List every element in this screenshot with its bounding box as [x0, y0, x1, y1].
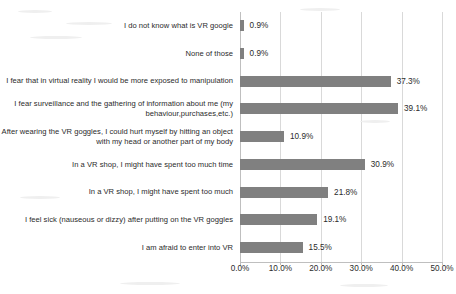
x-tick-label: 30.0%	[350, 264, 373, 273]
bar-row: I feel sick (nauseous or dizzy) after pu…	[0, 206, 456, 234]
bar-row: I am afraid to enter into VR 15.5%	[0, 234, 456, 262]
x-axis-ticks: 0.0% 10.0% 20.0% 30.0% 40.0% 50.0%	[240, 264, 442, 278]
bar-row: I fear that in virtual reality I would b…	[0, 67, 456, 95]
category-label: In a VR shop, I might have spent too muc…	[0, 187, 233, 197]
bar-row: In a VR shop, I might have spent too muc…	[0, 178, 456, 206]
category-label: After wearing the VR goggles, I could hu…	[0, 127, 233, 146]
bar-value-label: 15.5%	[309, 243, 332, 252]
bar-value-label: 0.9%	[250, 49, 269, 58]
bar-row: I fear surveillance and the gathering of…	[0, 95, 456, 123]
bar	[240, 159, 365, 170]
bar	[240, 131, 284, 142]
bar-value-label: 30.9%	[371, 160, 394, 169]
category-label: I fear surveillance and the gathering of…	[0, 99, 233, 118]
bar-container: 10.9%	[240, 123, 442, 151]
bar-container: 19.1%	[240, 206, 442, 234]
scan-artifact	[340, 284, 388, 287]
bar-container: 0.9%	[240, 40, 442, 68]
bar-container: 21.8%	[240, 178, 442, 206]
category-label: I feel sick (nauseous or dizzy) after pu…	[0, 215, 233, 225]
x-tick-label: 50.0%	[430, 264, 453, 273]
bar-value-label: 19.1%	[323, 215, 346, 224]
x-tick-label: 0.0%	[231, 264, 250, 273]
x-tick-label: 10.0%	[269, 264, 292, 273]
category-label: I am afraid to enter into VR	[0, 243, 233, 253]
bar-value-label: 21.8%	[334, 188, 357, 197]
bar-container: 37.3%	[240, 67, 442, 95]
x-tick-label: 40.0%	[390, 264, 413, 273]
category-label: None of those	[0, 49, 233, 59]
bar-rows: I do not know what is VR google 0.9% Non…	[0, 12, 456, 262]
bar-container: 30.9%	[240, 151, 442, 179]
x-tick-label: 20.0%	[309, 264, 332, 273]
category-label: In a VR shop, I might have spent too muc…	[0, 160, 233, 170]
bar-row: After wearing the VR goggles, I could hu…	[0, 123, 456, 151]
bar	[240, 103, 398, 114]
bar-value-label: 10.9%	[290, 132, 313, 141]
bar	[240, 20, 244, 31]
scan-artifact	[120, 282, 180, 285]
category-label: I fear that in virtual reality I would b…	[0, 76, 233, 86]
category-label: I do not know what is VR google	[0, 21, 233, 31]
bar-value-label: 37.3%	[397, 77, 420, 86]
bar	[240, 214, 317, 225]
bar-value-label: 0.9%	[250, 21, 269, 30]
horizontal-bar-chart: I do not know what is VR google 0.9% Non…	[0, 0, 456, 294]
bar	[240, 187, 328, 198]
bar	[240, 76, 391, 87]
bar	[240, 48, 244, 59]
x-axis-line	[240, 262, 443, 263]
bar-container: 0.9%	[240, 12, 442, 40]
bar-value-label: 39.1%	[404, 104, 427, 113]
bar-container: 39.1%	[240, 95, 442, 123]
bar-row: In a VR shop, I might have spent too muc…	[0, 151, 456, 179]
bar-row: I do not know what is VR google 0.9%	[0, 12, 456, 40]
scan-artifact	[300, 8, 340, 11]
bar	[240, 242, 303, 253]
bar-container: 15.5%	[240, 234, 442, 262]
bar-row: None of those 0.9%	[0, 40, 456, 68]
